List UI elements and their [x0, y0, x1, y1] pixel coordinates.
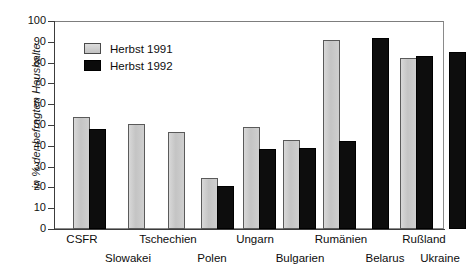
y-tick-mark — [48, 21, 54, 22]
y-tick-mark — [48, 167, 54, 168]
legend-label-1991: Herbst 1991 — [110, 43, 173, 55]
y-tick-mark — [48, 229, 54, 230]
y-tick-mark — [48, 187, 54, 188]
y-tick-label-wrap: 0 — [0, 223, 46, 234]
y-tick-mark — [48, 42, 54, 43]
bar-ungarn-1992 — [259, 149, 276, 229]
bar-ru-land-1991 — [400, 58, 417, 229]
x-label-slowakei: Slowakei — [105, 252, 151, 265]
y-tick-mark — [48, 63, 54, 64]
x-label-bulgarien: Bulgarien — [276, 252, 325, 265]
y-tick-mark — [48, 83, 54, 84]
y-tick-label: 20 — [2, 181, 46, 192]
y-tick-label: 70 — [2, 77, 46, 88]
y-tick-mark — [48, 125, 54, 126]
bar-csfr-1991 — [73, 117, 90, 229]
x-label-ungarn: Ungarn — [236, 233, 274, 246]
y-tick-label-wrap: 50 — [0, 119, 46, 130]
x-label-belarus: Belarus — [366, 252, 405, 265]
legend-label-1992: Herbst 1992 — [110, 60, 173, 72]
y-tick-label-wrap: 20 — [0, 181, 46, 192]
y-tick-label: 10 — [2, 202, 46, 213]
y-tick-label-wrap: 10 — [0, 202, 46, 213]
x-label-ru-land: Rußland — [402, 233, 445, 246]
bar-ru-land-1992 — [416, 56, 433, 229]
y-tick-mark — [48, 208, 54, 209]
legend-entry-herbst-1991: Herbst 1991 — [84, 40, 173, 57]
y-tick-label-wrap: 60 — [0, 98, 46, 109]
y-tick-label: 50 — [2, 119, 46, 130]
bar-rum-nien-1991 — [323, 40, 340, 229]
bar-tschechien-1991 — [168, 132, 185, 229]
y-tick-label-wrap: 30 — [0, 161, 46, 172]
bar-bulgarien-1991 — [283, 140, 300, 229]
legend-entry-herbst-1992: Herbst 1992 — [84, 57, 173, 74]
chart-legend: Herbst 1991 Herbst 1992 — [84, 40, 173, 74]
bar-csfr-1992 — [89, 129, 106, 229]
x-label-csfr: CSFR — [66, 233, 97, 246]
bar-belarus-1992 — [372, 38, 389, 229]
y-tick-label: 90 — [2, 36, 46, 47]
x-axis-line — [54, 229, 445, 230]
y-tick-label-wrap: 70 — [0, 77, 46, 88]
y-tick-mark — [48, 104, 54, 105]
y-tick-label-wrap: 80 — [0, 57, 46, 68]
y-tick-label: 30 — [2, 161, 46, 172]
bar-ukraine-1992 — [449, 52, 466, 229]
y-tick-label: 40 — [2, 140, 46, 151]
x-label-tschechien: Tschechien — [139, 233, 197, 246]
y-tick-label-wrap: 90 — [0, 36, 46, 47]
bar-polen-1992 — [217, 186, 234, 229]
y-tick-label: 100 — [2, 15, 46, 26]
x-label-rum-nien: Rumänien — [315, 233, 367, 246]
y-tick-label: 60 — [2, 98, 46, 109]
bar-slowakei-1991 — [128, 124, 145, 229]
y-tick-label-wrap: 40 — [0, 140, 46, 151]
bar-polen-1991 — [201, 178, 218, 229]
bar-bulgarien-1992 — [299, 148, 316, 229]
y-tick-label-wrap: 100 — [0, 15, 46, 26]
y-tick-label: 80 — [2, 57, 46, 68]
legend-swatch-1992-icon — [84, 60, 101, 71]
bar-ungarn-1991 — [243, 127, 260, 229]
bar-rum-nien-1992 — [339, 141, 356, 229]
legend-swatch-1991-icon — [84, 43, 101, 54]
x-label-ukraine: Ukraine — [420, 252, 460, 265]
y-tick-mark — [48, 146, 54, 147]
y-tick-label: 0 — [2, 223, 46, 234]
x-label-polen: Polen — [197, 252, 226, 265]
